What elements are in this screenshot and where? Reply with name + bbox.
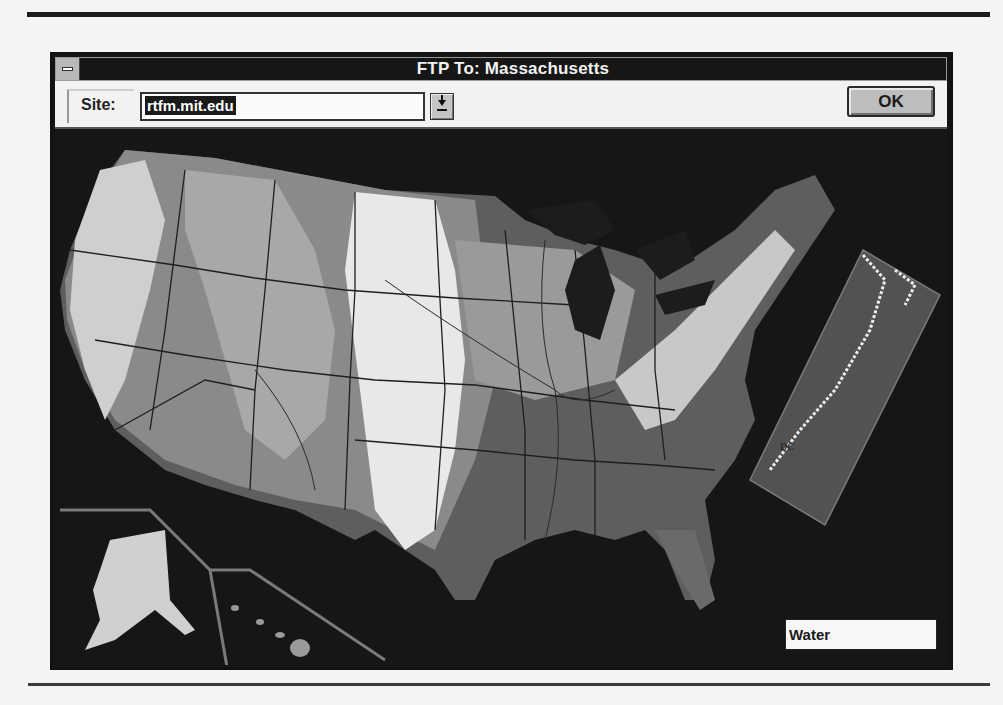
dc-label: DC (780, 441, 794, 452)
title-bar[interactable]: FTP To: Massachusetts (55, 57, 947, 81)
alaska (85, 530, 195, 650)
bottom-rule (28, 683, 990, 686)
system-menu-icon[interactable] (56, 58, 80, 80)
ftp-window: FTP To: Massachusetts Site: rtfm.mit.edu… (50, 52, 953, 670)
us-relief-map[interactable]: DC Water (55, 130, 947, 665)
map-graphic: DC (55, 130, 947, 665)
dropdown-arrow-icon (438, 100, 446, 106)
toolbar: Site: rtfm.mit.edu OK (55, 81, 947, 129)
legend-water: Water (785, 619, 937, 650)
site-label: Site: (81, 96, 116, 114)
site-input-value: rtfm.mit.edu (145, 96, 236, 115)
ok-button[interactable]: OK (847, 86, 935, 117)
window-title: FTP To: Massachusetts (80, 58, 946, 80)
dropdown-underline-glyph (437, 109, 447, 111)
hawaii-islands (231, 605, 310, 657)
system-menu-bar-glyph (62, 67, 73, 71)
site-combobox-input[interactable]: rtfm.mit.edu (140, 92, 425, 121)
site-label-frame: Site: (67, 89, 134, 123)
site-dropdown-button[interactable] (430, 93, 454, 120)
top-rule (27, 12, 990, 17)
